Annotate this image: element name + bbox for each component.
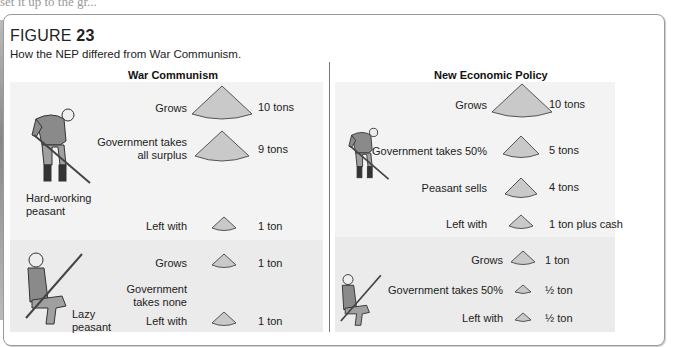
- cutoff-text: set it up to the gr...: [0, 0, 97, 10]
- wc-lazy-left-label: Left with: [146, 315, 187, 328]
- nep-lazy-left-label: Left with: [462, 312, 503, 325]
- wc-hardworking-caption: Hard-working peasant: [26, 192, 91, 218]
- cone-1-ton: [508, 213, 534, 231]
- nep-lazy-grows-value: 1 ton: [545, 254, 569, 267]
- label-line: Government: [126, 283, 187, 296]
- cone-4-tons: [503, 176, 539, 200]
- cone-1-ton: [211, 215, 237, 233]
- figure-label: FIGURE: [10, 27, 72, 44]
- cone-1-ton: [211, 310, 237, 328]
- figure-caption: How the NEP differed from War Communism.: [10, 48, 241, 60]
- cone-9-tons: [193, 128, 251, 164]
- wc-panel-title: War Communism: [128, 69, 218, 81]
- wc-hw-left-value: 1 ton: [258, 220, 282, 233]
- nep-lazy-gov-label: Government takes 50%: [388, 284, 503, 297]
- wc-hw-left-label: Left with: [146, 220, 187, 233]
- nep-lazy-left-value: ½ ton: [545, 312, 573, 325]
- caption-line: peasant: [72, 321, 111, 334]
- figure-number: 23: [76, 27, 94, 44]
- nep-hw-gov-value: 5 tons: [549, 144, 579, 157]
- nep-hw-sells-label: Peasant sells: [422, 182, 487, 195]
- nep-hw-grows-label: Grows: [455, 99, 487, 112]
- label-line: Government takes: [97, 136, 187, 149]
- label-line: all surplus: [97, 149, 187, 162]
- wc-lazy-grows-value: 1 ton: [258, 257, 282, 270]
- caption-line: Hard-working: [26, 192, 91, 205]
- cone-10-tons: [190, 82, 254, 122]
- nep-lazy-gov-value: ½ ton: [545, 284, 573, 297]
- nep-lazy-grows-label: Grows: [471, 254, 503, 267]
- wc-hw-gov-value: 9 tons: [258, 143, 288, 156]
- wc-hw-grows-value: 10 tons: [258, 101, 294, 114]
- nep-hw-left-label: Left with: [446, 218, 487, 231]
- wc-lazy-gov-label: Government takes none: [126, 283, 187, 309]
- hardworking-peasant-icon: [22, 105, 92, 185]
- caption-line: peasant: [26, 205, 91, 218]
- wc-hw-grows-label: Grows: [155, 102, 187, 115]
- cone-10-tons: [490, 80, 554, 120]
- wc-lazy-grows-label: Grows: [155, 257, 187, 270]
- nep-hw-gov-label: Government takes 50%: [372, 145, 487, 158]
- figure-title: FIGURE 23: [10, 27, 95, 45]
- cone-1-ton: [510, 249, 536, 267]
- lazy-peasant-icon: [338, 272, 388, 330]
- caption-line: Lazy: [72, 308, 111, 321]
- wc-hw-gov-label: Government takes all surplus: [97, 136, 187, 162]
- cone-5-tons: [501, 134, 541, 160]
- panel-divider: [329, 62, 330, 332]
- cone-half-ton: [514, 283, 532, 295]
- label-line: takes none: [126, 296, 187, 309]
- cone-1-ton: [211, 252, 237, 270]
- nep-hw-grows-value: 10 tons: [549, 98, 585, 111]
- wc-lazy-caption: Lazy peasant: [72, 308, 111, 334]
- wc-lazy-left-value: 1 ton: [258, 315, 282, 328]
- cone-half-ton: [514, 311, 532, 323]
- nep-hw-sells-value: 4 tons: [549, 181, 579, 194]
- nep-hw-left-value: 1 ton plus cash: [549, 218, 623, 231]
